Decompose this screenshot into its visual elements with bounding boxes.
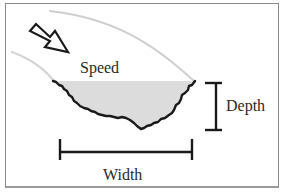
width-label: Width xyxy=(103,167,142,183)
upper-flow-curve xyxy=(50,11,195,82)
speed-label: Speed xyxy=(80,60,119,76)
width-bracket xyxy=(60,139,192,160)
channel-cross-section xyxy=(53,81,195,129)
depth-label: Depth xyxy=(226,98,265,114)
depth-bracket xyxy=(205,83,222,130)
lower-flow-curve xyxy=(12,52,53,80)
flow-direction-arrow xyxy=(30,24,68,52)
